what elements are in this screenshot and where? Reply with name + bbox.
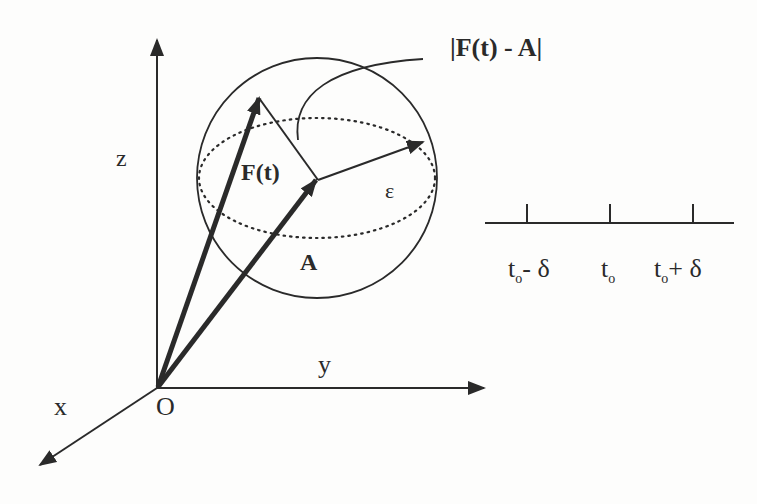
diagram-graphics (0, 0, 757, 504)
x-axis-label: x (54, 394, 67, 420)
label-leader-curve (297, 59, 423, 140)
tick-label-t0-minus-delta: to- δ (508, 256, 550, 282)
origin-label: O (156, 394, 175, 420)
vector-F-label: F(t) (241, 160, 280, 184)
tick-sub: o (661, 271, 668, 286)
z-axis-label: z (116, 146, 127, 170)
tick-label-t0-plus-delta: to+ δ (654, 256, 702, 282)
vector-A (158, 180, 316, 387)
difference-magnitude-label: |F(t) - A| (450, 35, 542, 61)
epsilon-radius (318, 142, 423, 180)
tick-label-t0: to (601, 256, 615, 282)
vector-A-label: A (300, 250, 317, 274)
tick-sub: o (515, 271, 522, 286)
tick-suffix: + δ (668, 254, 701, 283)
epsilon-label: ε (385, 180, 394, 202)
tick-sub: o (608, 271, 615, 286)
vector-limit-diagram: |F(t) - A| z y x O F(t) A ε to- δ to to+… (0, 0, 757, 504)
vector-F (158, 98, 259, 387)
y-axis-label: y (318, 352, 331, 378)
tick-suffix: - δ (522, 254, 549, 283)
